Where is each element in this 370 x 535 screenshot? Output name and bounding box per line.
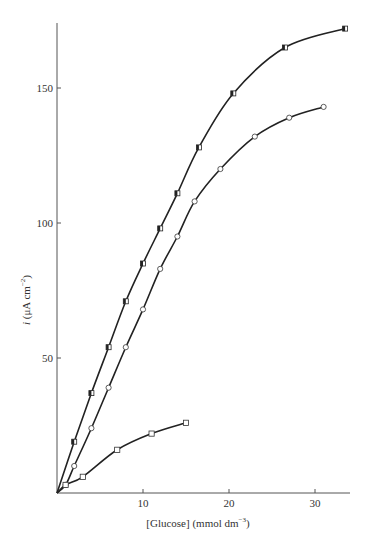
data-point-series-2 [106,385,111,390]
data-point-series-2 [252,134,257,139]
data-point-series-2 [175,234,180,239]
y-axis-label: i (μA cm−2) [19,275,33,325]
data-point-series-3 [149,431,154,436]
data-point-series-2 [72,463,77,468]
data-point-series-3 [80,474,85,479]
x-tick-label: 30 [310,497,322,509]
data-point-series-1 [141,261,146,266]
data-point-series-2 [123,345,128,350]
data-point-series-1 [196,145,201,150]
x-tick-label: 10 [138,497,150,509]
data-point-series-2 [158,266,163,271]
axes [57,23,350,493]
data-point-series-3 [115,447,120,452]
data-point-series-1 [282,45,287,50]
data-point-series-1 [123,299,128,304]
data-point-series-1 [231,91,236,96]
data-point-series-2 [192,199,197,204]
y-tick-label: 150 [37,82,54,94]
data-point-series-2 [89,426,94,431]
data-point-series-1 [72,439,77,444]
data-point-series-2 [140,307,145,312]
ticks: 10203050100150 [37,82,322,509]
data-point-series-2 [321,104,326,109]
x-axis-label: [Glucose] (mmol dm−3) [146,516,250,530]
y-tick-label: 100 [37,217,54,229]
y-tick-label: 50 [42,352,54,364]
x-tick-label: 20 [224,497,236,509]
data-point-series-1 [175,191,180,196]
data-point-series-1 [343,26,348,31]
data-point-series-1 [89,391,94,396]
data-point-series-3 [63,482,68,487]
series-line-1 [57,29,345,493]
curves [57,29,345,493]
data-point-series-2 [287,115,292,120]
data-point-series-1 [106,345,111,350]
markers [63,26,348,487]
data-point-series-1 [158,226,163,231]
data-point-series-3 [183,420,188,425]
data-point-series-2 [218,166,223,171]
chart: 10203050100150 [Glucose] (mmol dm−3) i (… [0,0,370,535]
